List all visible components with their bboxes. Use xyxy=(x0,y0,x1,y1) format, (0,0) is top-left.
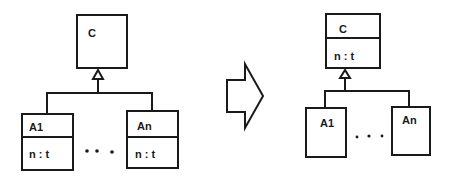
diagram-canvas: C A1 n : t An n : t xyxy=(0,0,451,177)
class-a1-before: A1 n : t xyxy=(22,114,73,170)
class-attribute: n : t xyxy=(135,148,155,160)
ellipsis-before xyxy=(85,149,114,154)
class-name: An xyxy=(137,120,152,132)
before-diagram: C A1 n : t An n : t xyxy=(22,15,178,170)
inheritance-triangle-icon xyxy=(93,70,103,79)
generalization-after xyxy=(325,70,409,108)
inheritance-triangle-icon xyxy=(340,70,350,78)
class-c-before: C xyxy=(77,15,127,68)
right-arrow-icon xyxy=(227,64,263,128)
after-diagram: C n : t A1 An xyxy=(306,14,430,157)
class-name: C xyxy=(339,23,347,35)
class-name: A1 xyxy=(29,121,43,133)
class-attribute: n : t xyxy=(334,50,354,62)
class-c-after: C n : t xyxy=(326,14,380,68)
class-name: A1 xyxy=(320,117,334,129)
class-name: An xyxy=(402,114,417,126)
class-name: C xyxy=(88,27,96,39)
ellipsis-after xyxy=(356,134,384,138)
generalization-before xyxy=(47,70,152,114)
class-an-before: An n : t xyxy=(127,111,178,168)
class-an-after: An xyxy=(392,107,430,155)
class-a1-after: A1 xyxy=(306,108,346,157)
class-attribute: n : t xyxy=(29,148,49,160)
